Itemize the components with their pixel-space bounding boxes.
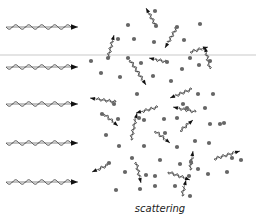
particle-dot	[207, 141, 211, 145]
particle-dot	[116, 117, 120, 121]
arrowhead-icon	[235, 151, 240, 155]
arrowhead-icon	[190, 151, 194, 156]
incident-wave-arrow	[6, 24, 78, 29]
particles	[89, 9, 243, 198]
particle-dot	[104, 133, 108, 137]
particle-dot	[130, 156, 134, 160]
particle-dot	[123, 170, 127, 174]
particle-dot	[188, 194, 192, 198]
particle-dot	[198, 22, 202, 26]
arrowhead-icon	[71, 24, 78, 29]
particle-dot	[139, 61, 143, 65]
particle-dot	[196, 167, 200, 171]
scattered-wave-arrow	[180, 120, 193, 131]
particle-dot	[158, 158, 162, 162]
scattered-wave-arrow	[129, 60, 146, 85]
scattering-diagram	[0, 0, 256, 224]
particle-dot	[225, 170, 229, 174]
particle-dot	[138, 187, 142, 191]
arrowhead-icon	[71, 101, 78, 106]
particle-dot	[152, 40, 156, 44]
particle-dot	[142, 144, 146, 148]
particle-dot	[153, 174, 157, 178]
particle-dot	[189, 160, 193, 164]
scattered-wave-arrow	[168, 172, 190, 180]
diagram-caption: scattering	[120, 203, 200, 214]
particle-dot	[185, 106, 189, 110]
particle-dot	[106, 56, 110, 60]
particle-dot	[239, 158, 243, 162]
scattered-wave-arrow	[173, 106, 196, 112]
scattered-wave-arrow	[90, 97, 116, 103]
scattered-wave-arrow	[130, 113, 137, 140]
scattered-wave-arrow	[170, 88, 192, 98]
scattered-wave-arrow	[107, 35, 114, 58]
arrowhead-icon	[138, 178, 142, 183]
incident-wave-arrow	[6, 101, 78, 106]
particle-dot	[99, 71, 103, 75]
particle-dot	[230, 156, 234, 160]
particle-dot	[137, 116, 141, 120]
particle-dot	[169, 79, 173, 83]
particle-dot	[126, 56, 130, 60]
scattered-wave-arrow	[135, 162, 142, 183]
particle-dot	[142, 118, 146, 122]
particle-dot	[175, 145, 179, 149]
arrowhead-icon	[71, 179, 78, 184]
arrowhead-icon	[90, 97, 95, 101]
particle-dot	[193, 139, 197, 143]
particle-dot	[126, 23, 130, 27]
particle-dot	[89, 59, 93, 63]
particle-dot	[112, 102, 116, 106]
particle-dot	[173, 184, 177, 188]
scattered-wave-arrow	[136, 106, 158, 114]
scattered-wave-arrow	[155, 131, 170, 143]
scattered-wave-arrow	[149, 57, 167, 62]
arrowhead-icon	[173, 106, 178, 110]
particle-dot	[162, 117, 166, 121]
particle-dot	[181, 102, 185, 106]
scattered-wave-arrow	[181, 180, 186, 196]
particle-dot	[163, 131, 167, 135]
particle-dot	[203, 106, 207, 110]
scattered-wave-arrow	[92, 164, 108, 172]
arrowhead-icon	[71, 140, 78, 145]
arrowhead-icon	[165, 43, 169, 48]
particle-dot	[180, 67, 184, 71]
particle-dot	[100, 112, 104, 116]
particle-dot	[144, 173, 148, 177]
particle-dot	[153, 184, 157, 188]
particle-dot	[175, 116, 179, 120]
particle-dot	[182, 38, 186, 42]
scattered-wave-arrow	[204, 47, 211, 69]
incident-wave-arrow	[6, 64, 78, 69]
particle-dot	[187, 174, 191, 178]
particle-dot	[132, 37, 136, 41]
particle-dot	[222, 121, 226, 125]
arrowhead-icon	[183, 180, 187, 185]
arrowhead-icon	[142, 80, 146, 85]
particle-dot	[188, 56, 192, 60]
arrowhead-icon	[71, 64, 78, 69]
particle-dot	[151, 74, 155, 78]
scattered-wave-arrow	[165, 27, 177, 48]
arrowhead-icon	[92, 168, 97, 172]
arrowhead-icon	[170, 94, 175, 98]
particle-dot	[218, 122, 222, 126]
scattered-waves	[90, 8, 240, 196]
incident-waves	[6, 24, 78, 184]
particle-dot	[208, 59, 212, 63]
particle-dot	[197, 63, 201, 67]
particle-dot	[175, 25, 179, 29]
scattered-wave-arrow	[214, 151, 240, 160]
particle-dot	[154, 24, 158, 28]
particle-dot	[118, 75, 122, 79]
particle-dot	[107, 161, 111, 165]
particle-dot	[117, 144, 121, 148]
particle-dot	[153, 9, 157, 13]
particle-dot	[116, 37, 120, 41]
arrowhead-icon	[149, 57, 154, 61]
particle-dot	[211, 92, 215, 96]
particle-dot	[135, 92, 139, 96]
particle-dot	[208, 122, 212, 126]
